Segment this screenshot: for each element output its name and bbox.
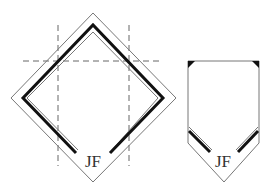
pentagon-monogram: JF — [215, 152, 231, 171]
pentagon-lower-left-stripe — [189, 131, 210, 152]
pentagon-top-right-stripe — [252, 61, 259, 68]
pentagon-top-left-stripe — [188, 61, 195, 68]
pentagon-lower-left-thin — [189, 127, 212, 150]
pentagon-lower-right-stripe — [238, 131, 258, 152]
diamond-monogram: JF — [85, 152, 101, 171]
diamond-stripe — [23, 25, 163, 153]
diagram-canvas: JF JF — [0, 0, 271, 192]
pentagon-lower-right-thin — [236, 127, 258, 150]
diamond-figure: JF — [11, 13, 176, 182]
fold-diagram: JF JF — [0, 0, 271, 192]
pentagon-figure: JF — [188, 61, 259, 182]
diamond-inner-thin-left — [27, 32, 158, 150]
